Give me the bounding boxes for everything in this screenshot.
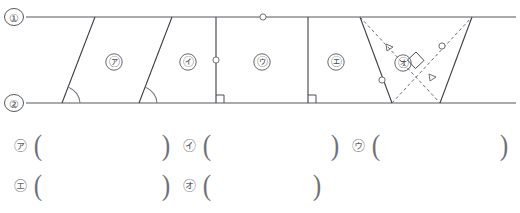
shape-label-c-text: ㋒ [257,56,268,68]
angle-arc-shape-b [146,87,158,103]
answer-paren-open-b: ( [203,130,212,160]
right-angle-mark-c [308,95,316,103]
answer-paren-open-c: ( [372,130,381,160]
edge-d-right [360,17,392,103]
tick-left-vertical-icon [213,57,219,63]
shape-label-c: ㋒ [254,54,270,70]
answer-row-1: ㋐ ( ) ㋑ ( ) ㋒ ( ) [0,126,520,166]
tick-circle-lower-icon [379,77,385,83]
answer-paren-close-e: ) [313,170,322,200]
answer-item-c[interactable]: ㋒ ( ) [352,126,509,164]
tick-circle-upper-icon [439,43,445,49]
answer-paren-close-b: ) [331,130,340,160]
tick-triangle-lower-icon [429,74,436,81]
answer-paren-open-e: ( [203,170,212,200]
answer-section: ㋐ ( ) ㋑ ( ) ㋒ ( ) ㋓ ( ) [0,120,520,213]
answer-label-d: ㋓ [14,179,27,192]
answer-paren-close-a: ) [162,130,171,160]
right-angle-mark-intersection [408,52,425,69]
answer-row-2: ㋓ ( ) ㋔ ( ) [0,166,520,206]
line-label-2: ② [5,95,24,112]
shape-label-e-text: ㋔ [398,57,409,69]
answer-blank-d[interactable] [43,185,161,186]
tick-triangle-upper-icon [386,44,393,51]
answer-item-a[interactable]: ㋐ ( ) [14,126,171,164]
answer-item-b[interactable]: ㋑ ( ) [183,126,340,164]
shape-label-d: ㋓ [328,54,344,70]
line-label-2-text: ② [9,98,19,110]
geometry-figure: .solid { stroke: #3c3f44; stroke-width: … [0,0,520,120]
answer-item-e[interactable]: ㋔ ( ) [183,166,322,204]
answer-blank-b[interactable] [212,145,330,146]
answer-paren-close-c: ) [500,130,509,160]
answer-label-a: ㋐ [14,139,27,152]
tick-top-side-icon [260,14,266,20]
edge-a-right [139,17,172,103]
angle-arc-shape-a [69,87,81,103]
answer-blank-a[interactable] [43,145,161,146]
answer-blank-c[interactable] [381,145,499,146]
answer-label-c: ㋒ [352,139,365,152]
shape-label-b-text: ㋑ [183,56,194,68]
answer-paren-open-d: ( [34,170,43,200]
right-angle-mark-b [216,95,224,103]
shape-label-d-text: ㋓ [331,56,342,68]
worksheet-page: .solid { stroke: #3c3f44; stroke-width: … [0,0,520,213]
answer-item-d[interactable]: ㋓ ( ) [14,166,171,204]
line-label-1-text: ① [9,12,19,24]
shape-label-a: ㋐ [106,54,122,70]
shape-label-b: ㋑ [180,54,196,70]
line-label-1: ① [5,9,24,26]
shape-label-e: ㋔ [395,55,411,71]
answer-blank-e[interactable] [212,185,312,186]
answer-label-e: ㋔ [183,179,196,192]
shape-label-a-text: ㋐ [109,56,120,68]
edge-e-right [440,17,472,103]
answer-paren-close-d: ) [162,170,171,200]
edge-a-left [62,17,95,103]
answer-label-b: ㋑ [183,139,196,152]
answer-paren-open-a: ( [34,130,43,160]
